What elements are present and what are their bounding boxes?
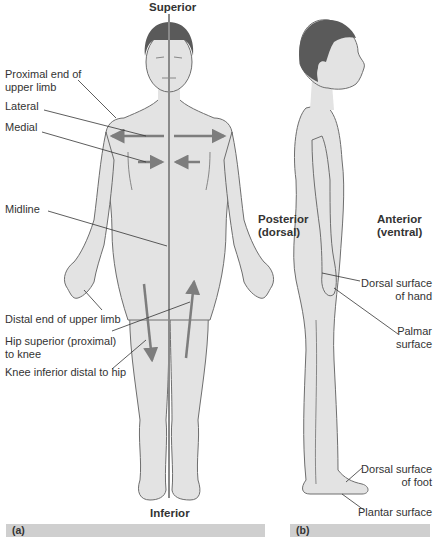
- anterior-label: Anterior (ventral): [377, 213, 422, 239]
- posterior-label: Posterior (dorsal): [258, 213, 309, 239]
- hip-superior-label: Hip superior (proximal) to knee: [5, 335, 116, 361]
- dorsal-surface-hand-label: Dorsal surface of hand: [361, 277, 432, 303]
- caption-bar-b: (b): [290, 524, 430, 537]
- midline-label: Midline: [5, 203, 40, 216]
- proximal-end-upper-limb-label: Proximal end of upper limb: [5, 68, 81, 94]
- caption-bar-a: (a): [6, 524, 265, 537]
- plantar-surface-label: Plantar surface: [358, 506, 432, 519]
- side-view-body: [294, 20, 368, 494]
- anatomy-figure: Superior Proximal end of upper limb Late…: [0, 0, 436, 542]
- distal-end-upper-limb-label: Distal end of upper limb: [5, 313, 121, 326]
- lateral-label: Lateral: [5, 100, 39, 113]
- side-body: [294, 104, 368, 494]
- dorsal-surface-foot-label: Dorsal surface of foot: [361, 463, 432, 489]
- palmar-surface-label: Palmar surface: [396, 325, 432, 351]
- superior-label: Superior: [149, 1, 196, 14]
- caption-a: (a): [12, 524, 25, 537]
- medial-label: Medial: [5, 121, 37, 134]
- front-left-arm: [64, 132, 114, 298]
- inferior-label: Inferior: [150, 507, 190, 520]
- knee-inferior-label: Knee inferior distal to hip: [5, 366, 126, 379]
- caption-b: (b): [296, 524, 309, 537]
